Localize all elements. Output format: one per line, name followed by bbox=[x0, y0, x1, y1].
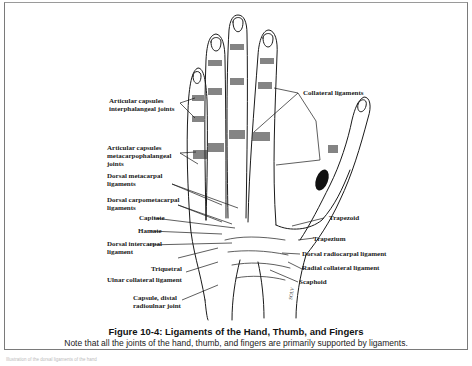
figure-title: Figure 10-4: Ligaments of the Hand, Thum… bbox=[0, 326, 472, 337]
label-line: Capsule, distal bbox=[133, 294, 181, 302]
label-dorsal-carpometacarpal: Dorsal carpometacarpal ligaments bbox=[107, 196, 180, 212]
label-line: radioulnar joint bbox=[133, 302, 181, 310]
label-line: ligament bbox=[107, 248, 162, 256]
label-dorsal-intercarpal: Dorsal intercarpal ligament bbox=[107, 240, 162, 256]
little-finger bbox=[187, 68, 207, 222]
label-line: Dorsal carpometacarpal bbox=[107, 196, 180, 204]
thumb bbox=[300, 97, 370, 255]
joint-ligaments bbox=[192, 44, 338, 159]
label-triquetral: Triquetral bbox=[151, 265, 182, 273]
label-radial-collateral: Radial collateral ligament bbox=[302, 264, 379, 272]
label-articular-capsules-mcp: Articular capsules metacarpophalangeal j… bbox=[107, 144, 172, 168]
label-hamate: Hamate bbox=[138, 227, 162, 235]
label-collateral-ligaments: Collateral ligaments bbox=[303, 89, 363, 97]
label-line: ligaments bbox=[107, 204, 180, 212]
label-line: Dorsal metacarpal bbox=[107, 172, 162, 180]
label-line: metacarpophalangeal bbox=[107, 152, 172, 160]
label-ulnar-collateral: Ulnar collateral ligament bbox=[107, 276, 182, 284]
label-articular-capsules-ip: Articular capsules interphalangeal joint… bbox=[109, 97, 175, 113]
figure-caption: Note that all the joints of the hand, th… bbox=[0, 338, 472, 348]
artist-signature: SOLV bbox=[288, 287, 295, 301]
label-scaphoid: Scaphoid bbox=[299, 278, 327, 286]
label-capitate: Capitate bbox=[139, 214, 165, 222]
hand-ligament-illustration: SOLV bbox=[0, 0, 472, 366]
label-trapezoid: Trapezoid bbox=[329, 214, 359, 222]
label-line: interphalangeal joints bbox=[109, 105, 175, 113]
label-dorsal-radiocarpal: Dorsal radiocarpal ligament bbox=[302, 250, 386, 258]
label-line: Dorsal intercarpal bbox=[107, 240, 162, 248]
label-capsule-distal-radioulnar: Capsule, distal radioulnar joint bbox=[133, 294, 181, 310]
label-line: joints bbox=[107, 160, 172, 168]
label-dorsal-metacarpal: Dorsal metacarpal ligaments bbox=[107, 172, 162, 188]
label-line: ligaments bbox=[107, 180, 162, 188]
label-trapezium: Trapezium bbox=[313, 235, 346, 243]
footer-credit: Illustration of the dorsal ligaments of … bbox=[6, 357, 97, 362]
label-line: Articular capsules bbox=[107, 144, 172, 152]
label-line: Articular capsules bbox=[109, 97, 175, 105]
